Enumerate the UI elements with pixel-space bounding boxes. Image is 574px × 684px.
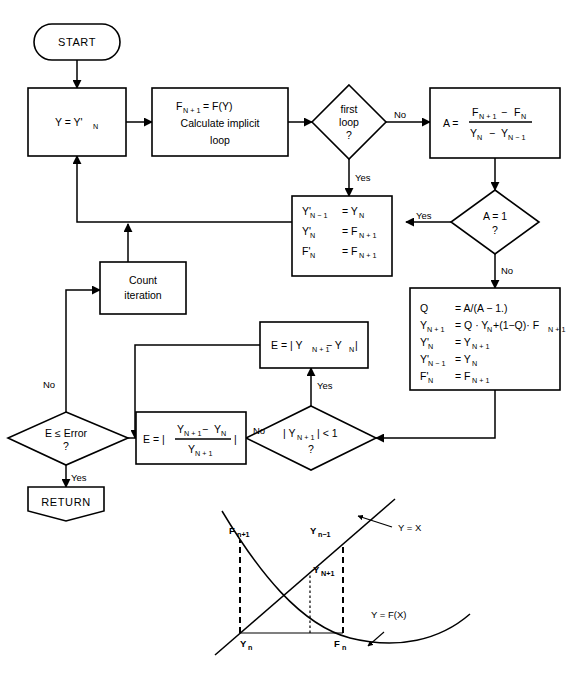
node-calc-a-label: A = F N + 1 − F N Y N − Y N − 1 bbox=[443, 106, 532, 142]
svg-text:Y: Y bbox=[240, 638, 247, 649]
svg-text:F: F bbox=[472, 106, 478, 118]
svg-text:iteration: iteration bbox=[124, 289, 162, 301]
node-assign-y-label: Y = Y' N bbox=[55, 116, 98, 131]
svg-text:N − 1: N − 1 bbox=[508, 133, 525, 142]
node-a-equals-one-label: A = 1 ? bbox=[483, 210, 507, 236]
svg-text:Y: Y bbox=[177, 423, 184, 435]
svg-text:N − 1: N − 1 bbox=[428, 359, 445, 368]
node-aitken-update-label: Q = A/(A − 1.) Y N + 1 = Q · Y N +(1−Q)·… bbox=[420, 302, 565, 385]
svg-text:N: N bbox=[349, 345, 354, 354]
svg-text:N + 1: N + 1 bbox=[479, 112, 496, 121]
svg-text:?: ? bbox=[492, 224, 498, 236]
svg-text:E = | Y: E = | Y bbox=[271, 339, 302, 351]
svg-text:N + 1: N + 1 bbox=[359, 231, 376, 240]
svg-text:− Y: − Y bbox=[326, 339, 342, 351]
svg-text:N + 1: N + 1 bbox=[297, 433, 314, 442]
svg-text:Y: Y bbox=[470, 127, 477, 139]
svg-text:Y: Y bbox=[501, 127, 508, 139]
svg-text:−: − bbox=[489, 127, 495, 139]
svg-text:n−1: n−1 bbox=[318, 530, 331, 539]
svg-text:first: first bbox=[341, 103, 358, 115]
svg-text:= Y: = Y bbox=[342, 205, 358, 217]
svg-text:n: n bbox=[248, 643, 252, 652]
svg-text:| < 1: | < 1 bbox=[317, 427, 338, 439]
svg-text:|: | bbox=[234, 433, 237, 445]
edge-label-errortest-yes: Yes bbox=[71, 472, 87, 483]
node-return-label: RETURN bbox=[41, 496, 90, 508]
svg-text:E = |: E = | bbox=[143, 433, 165, 445]
svg-text:N + 1: N + 1 bbox=[548, 325, 565, 334]
svg-text:N: N bbox=[428, 342, 433, 351]
node-error-absolute-label: E = | Y N + 1 − Y N | bbox=[271, 339, 358, 354]
svg-text:A = 1: A = 1 bbox=[483, 210, 507, 222]
inset-label-y-n: Y n bbox=[240, 638, 252, 652]
svg-text:Y = Y': Y = Y' bbox=[55, 116, 83, 128]
svg-text:Calculate implicit: Calculate implicit bbox=[181, 117, 260, 129]
flowchart-text-layer: START Y = Y' N F N + 1 = F(Y) Calculate … bbox=[0, 0, 574, 684]
svg-text:Y: Y bbox=[214, 423, 221, 435]
svg-text:N + 1: N + 1 bbox=[183, 106, 200, 115]
svg-text:N: N bbox=[310, 231, 315, 240]
node-abs-y-label: | Y N + 1 | < 1 ? bbox=[283, 427, 338, 455]
inset-label-y-equals-x: Y = X bbox=[398, 522, 422, 533]
svg-text:| Y: | Y bbox=[283, 427, 295, 439]
svg-text:N + 1: N + 1 bbox=[359, 251, 376, 260]
inset-label-y-equals-fx: Y = F(X) bbox=[371, 609, 406, 620]
svg-text:N: N bbox=[310, 251, 315, 260]
node-count-iteration-label: Count iteration bbox=[124, 274, 162, 301]
svg-text:N: N bbox=[221, 429, 226, 438]
svg-text:= F: = F bbox=[455, 370, 470, 382]
edge-label-aeq1-yes: Yes bbox=[416, 210, 432, 221]
svg-text:?: ? bbox=[346, 129, 352, 141]
svg-text:−: − bbox=[501, 106, 507, 118]
edge-label-firstloop-yes: Yes bbox=[355, 172, 371, 183]
edge-label-aeq1-no: No bbox=[501, 265, 513, 276]
svg-text:F: F bbox=[229, 525, 235, 536]
svg-text:F: F bbox=[334, 638, 340, 649]
node-first-loop-label: first loop ? bbox=[339, 103, 359, 141]
edge-label-abstest-no: No bbox=[253, 425, 265, 436]
svg-text:= Y: = Y bbox=[455, 353, 471, 365]
node-error-test-label: E ≤ Error ? bbox=[45, 427, 87, 452]
svg-text:N + 1: N + 1 bbox=[472, 342, 489, 351]
svg-text:= Y: = Y bbox=[455, 336, 471, 348]
svg-text:N − 1: N − 1 bbox=[310, 211, 327, 220]
edge-label-abstest-yes: Yes bbox=[317, 380, 333, 391]
svg-text:Q: Q bbox=[420, 302, 428, 314]
inset-label-f-n: F n bbox=[334, 638, 346, 652]
svg-text:Y: Y bbox=[188, 443, 195, 455]
svg-text:= A/(A − 1.): = A/(A − 1.) bbox=[455, 302, 508, 314]
inset-label-f-n-plus-1: F n+1 bbox=[229, 525, 250, 539]
svg-text:= Q · Y: = Q · Y bbox=[455, 319, 488, 331]
node-calc-implicit-loop-label: F N + 1 = F(Y) Calculate implicit loop bbox=[176, 100, 259, 146]
svg-text:N: N bbox=[477, 133, 482, 142]
svg-text:+(1−Q)· F: +(1−Q)· F bbox=[493, 319, 539, 331]
svg-text:N: N bbox=[359, 211, 364, 220]
svg-text:loop: loop bbox=[339, 116, 359, 128]
svg-text:N + 1: N + 1 bbox=[427, 325, 444, 334]
svg-text:F: F bbox=[514, 106, 520, 118]
svg-text:E ≤ Error: E ≤ Error bbox=[45, 427, 87, 439]
svg-text:Y: Y bbox=[310, 525, 317, 536]
flowchart-page: START Y = Y' N F N + 1 = F(Y) Calculate … bbox=[0, 0, 574, 684]
svg-text:?: ? bbox=[63, 440, 69, 452]
edge-label-errortest-no: No bbox=[43, 379, 55, 390]
svg-text:N: N bbox=[428, 376, 433, 385]
svg-text:N + 1: N + 1 bbox=[195, 449, 212, 458]
svg-text:?: ? bbox=[308, 443, 314, 455]
inset-label-y-n-minus-1: Y n−1 bbox=[310, 525, 331, 539]
svg-text:N: N bbox=[487, 325, 492, 334]
svg-text:= F: = F bbox=[342, 245, 357, 257]
node-save-previous-label: Y' N − 1 = Y N Y' N = F N + 1 F' N = F N… bbox=[302, 205, 376, 260]
svg-text:N+1: N+1 bbox=[321, 569, 334, 578]
edge-label-firstloop-no: No bbox=[394, 109, 406, 120]
svg-text:|: | bbox=[355, 339, 358, 351]
svg-text:N + 1: N + 1 bbox=[184, 429, 201, 438]
svg-text:N + 1: N + 1 bbox=[472, 376, 489, 385]
svg-text:N: N bbox=[472, 359, 477, 368]
svg-text:Y: Y bbox=[420, 319, 427, 331]
assign-y-subscript: N bbox=[93, 122, 98, 131]
node-start-label: START bbox=[58, 36, 96, 48]
inset-label-y-N-plus-1: Y N+1 bbox=[313, 564, 334, 578]
svg-text:Count: Count bbox=[129, 274, 157, 286]
